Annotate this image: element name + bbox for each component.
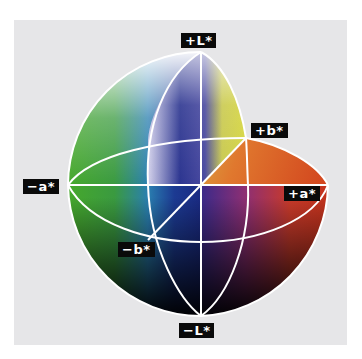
label-minus-L: −L*: [179, 323, 214, 338]
label-minus-a: −a*: [23, 179, 59, 194]
label-plus-L: +L*: [181, 33, 216, 48]
label-plus-b: +b*: [251, 123, 288, 138]
label-plus-a: +a*: [284, 186, 320, 201]
label-minus-b: −b*: [118, 242, 155, 257]
